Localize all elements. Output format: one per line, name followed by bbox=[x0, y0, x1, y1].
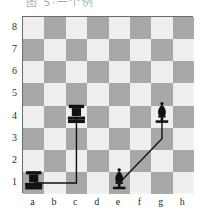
file-label-e: e bbox=[108, 196, 129, 207]
chessboard bbox=[22, 16, 193, 193]
file-label-f: f bbox=[129, 196, 150, 207]
piece-bishop-g4 bbox=[156, 102, 169, 123]
rank-label-1: 1 bbox=[3, 176, 17, 187]
rank-label-3: 3 bbox=[3, 132, 17, 143]
file-label-c: c bbox=[65, 196, 86, 207]
file-label-g: g bbox=[150, 196, 171, 207]
piece-rook-a1 bbox=[25, 171, 42, 190]
rank-label-8: 8 bbox=[3, 21, 17, 32]
file-label-b: b bbox=[43, 196, 64, 207]
rank-label-4: 4 bbox=[3, 110, 17, 121]
rank-label-6: 6 bbox=[3, 65, 17, 76]
file-label-a: a bbox=[22, 196, 43, 207]
piece-rook-c4 bbox=[68, 104, 85, 123]
rank-label-5: 5 bbox=[3, 87, 17, 98]
file-label-h: h bbox=[172, 196, 193, 207]
move-path-overlay bbox=[23, 17, 194, 194]
move-path-bishop-path bbox=[119, 117, 162, 183]
rank-label-2: 2 bbox=[3, 154, 17, 165]
pieces-layer bbox=[25, 102, 168, 190]
chess-diagram: 87654321 abcdefgh bbox=[0, 0, 203, 219]
paths-layer bbox=[34, 117, 162, 183]
file-label-d: d bbox=[86, 196, 107, 207]
rank-label-7: 7 bbox=[3, 43, 17, 54]
